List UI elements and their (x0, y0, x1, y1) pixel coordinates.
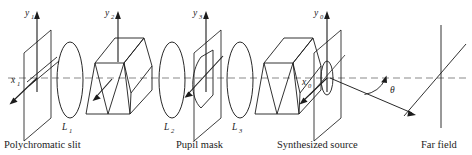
axis-label-y2-base: y (104, 8, 110, 18)
lens-label-L2-base: L (163, 122, 169, 132)
axis-y1-arrowhead (34, 11, 40, 19)
lens-label-L3-base: L (231, 122, 237, 132)
axis-label-y3-sub: 3 (198, 13, 203, 20)
axis-label-x0-base: x (301, 77, 307, 87)
lens-2-label: L 2 (163, 122, 175, 134)
axis-label-y1: y 1 (24, 8, 34, 20)
caption-far-field: Far field (421, 139, 458, 150)
prism-1-inner-v-right (108, 63, 124, 114)
lens-label-L1-sub: 1 (69, 127, 72, 134)
lens-3-group (227, 42, 253, 118)
pupil-mask-plane-parallelogram (194, 30, 221, 141)
prism-1-upper-right-face (124, 38, 152, 93)
caption-pupil-mask: Pupil mask (176, 139, 224, 150)
lens-2-group (159, 42, 185, 118)
prism-pair-1-group (86, 11, 152, 114)
lens-label-L2-sub: 2 (171, 127, 175, 134)
axis-label-y1-sub: 1 (31, 13, 34, 20)
prism-2-upper-right-face (293, 38, 321, 93)
optical-system-diagram: y 1 x 1 L 1 (0, 0, 472, 155)
prism-2-inner-v-right (277, 63, 293, 114)
pupil-mask-d-aperture (193, 50, 213, 108)
diffracted-ray-group (330, 76, 416, 117)
prism-1-front-body (86, 63, 130, 114)
prism-1-inner-v-left (95, 63, 108, 114)
axis-y3-arrowhead (203, 11, 209, 19)
prism-pair-2-group (255, 38, 327, 114)
prism-1-orientation-arrow-shaft (96, 79, 112, 97)
axis-label-x1-base: x (10, 75, 16, 85)
axis-y2-arrowhead (115, 11, 121, 19)
synthesized-source-group (310, 11, 345, 141)
axis-label-y0-base: y (313, 8, 319, 18)
lens-1-group (57, 42, 83, 118)
diffracted-ray-arrowhead (407, 111, 416, 117)
theta-angle-arc-arrowhead (381, 76, 387, 84)
prism-2-front-body (255, 63, 299, 114)
axis-label-y3-base: y (192, 8, 198, 18)
lens-1-ellipse (57, 42, 83, 118)
prism-2-right-edge-vertical (299, 93, 300, 114)
axis-label-x0: x 0 (301, 77, 312, 89)
axis-label-y1-base: y (24, 8, 30, 18)
prism-1-orientation-arrowhead (93, 94, 101, 101)
diffracted-ray-line (330, 78, 412, 113)
axis-label-x1-sub: 1 (17, 80, 20, 87)
slit-plane-group (10, 11, 60, 141)
prism-2-inner-v-left (264, 63, 277, 114)
prism-1-right-edge-vertical (130, 93, 131, 114)
axis-label-y0: y 0 (313, 8, 324, 20)
caption-polychromatic-slit: Polychromatic slit (4, 139, 81, 150)
far-field-group (404, 25, 466, 128)
prism-1-top-face (95, 38, 144, 63)
axis-label-x1: x 1 (10, 75, 20, 87)
axis-label-y0-sub: 0 (320, 13, 324, 20)
slit-aperture-line-b (29, 61, 59, 86)
lens-label-L3-sub: 3 (238, 127, 243, 134)
lens-3-ellipse (227, 42, 253, 118)
lens-2-ellipse (159, 42, 185, 118)
axis-label-y3: y 3 (192, 8, 203, 20)
prism-2-top-face (264, 38, 313, 63)
lens-label-L1-base: L (61, 122, 67, 132)
pupil-mask-orientation-arrowhead (185, 91, 194, 97)
optics-schematic-svg: y 1 x 1 L 1 (0, 0, 472, 155)
axis-label-y2: y 2 (104, 8, 115, 20)
lens-3-label: L 3 (231, 122, 243, 134)
caption-synthesized-source: Synthesized source (277, 139, 358, 150)
pupil-mask-group (185, 11, 224, 141)
axis-label-y2-sub: 2 (111, 13, 115, 20)
far-field-diagonal-line (404, 44, 466, 116)
angle-label-theta: θ (390, 85, 395, 95)
axis-y0-arrowhead (324, 11, 330, 19)
lens-1-label: L 1 (61, 122, 72, 134)
axis-label-x0-sub: 0 (308, 82, 312, 89)
